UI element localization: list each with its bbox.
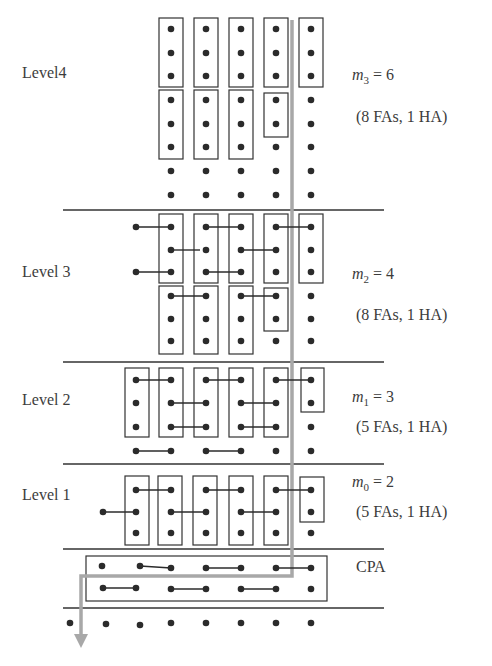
output-bit-dot [137,622,144,629]
output-bit-dot [168,620,175,627]
bit-dot [238,73,245,80]
bit-dot [203,400,210,407]
bit-dot [238,424,245,431]
bit-dot [168,293,175,300]
cpa-dot [203,586,210,593]
level-4-adder-count: (8 FAs, 1 HA) [356,108,447,126]
bit-dot [168,509,175,516]
bit-dot [203,50,210,57]
cpa-dot [273,565,280,572]
bit-dot [273,168,280,175]
output-bit-dot [103,621,110,628]
output-bit-dot [308,620,315,627]
bit-dot [238,224,245,231]
bit-dot [168,424,175,431]
bit-dot [203,73,210,80]
bit-dot [133,269,140,276]
bit-dot [168,192,175,199]
cpa-dot [133,585,140,592]
bit-dot [168,377,175,384]
bit-dot [203,192,210,199]
bit-dot [308,316,315,323]
bit-dot [238,338,245,345]
bit-dot [308,377,315,384]
bit-dot [133,530,140,537]
cpa-dot [203,565,210,572]
bit-dot [273,487,280,494]
bit-dot [238,293,245,300]
cpa-dot [238,565,245,572]
level-3-label: Level 3 [22,263,70,281]
adder-box [300,477,324,522]
bit-dot [203,121,210,128]
bit-dot [133,487,140,494]
bit-dot [238,26,245,33]
cpa-label: CPA [356,558,386,576]
bit-dot [273,338,280,345]
bit-dot [308,509,315,516]
bit-dot [203,530,210,537]
bit-dot [273,50,280,57]
bit-dot [273,293,280,300]
bit-dot [133,224,140,231]
bit-dot [273,424,280,431]
bit-dot [168,73,175,80]
output-bit-dot [203,620,210,627]
bit-dot [203,269,210,276]
cpa-dot [273,586,280,593]
output-bit-dot [238,620,245,627]
level-4-m-value: m3 = 6 [352,66,394,86]
bit-dot [273,247,280,254]
bit-dot [168,316,175,323]
level-1-label: Level 1 [22,486,70,504]
bit-dot [168,97,175,104]
arrow-head-icon [74,634,88,648]
cpa-dot [238,586,245,593]
bit-dot [273,509,280,516]
bit-dot [168,530,175,537]
bit-dot [203,448,210,455]
bit-dot [238,377,245,384]
level-3-adder-count: (8 FAs, 1 HA) [356,306,447,324]
bit-dot [238,247,245,254]
bit-dot [238,269,245,276]
output-bit-dot [67,620,74,627]
bit-dot [308,121,315,128]
bit-dot [133,400,140,407]
cpa-dot [99,563,106,570]
bit-dot [168,26,175,33]
bit-dot [308,448,315,455]
bit-dot [168,400,175,407]
bit-dot [168,487,175,494]
level-3-m-value: m2 = 4 [352,265,394,285]
bit-dot [203,97,210,104]
bit-dot [133,424,140,431]
bit-dot [133,448,140,455]
bit-dot [100,509,107,516]
bit-dot [308,338,315,345]
level-4-label: Level4 [22,64,66,82]
bit-dot [273,144,280,151]
level-1-m-value: m0 = 2 [352,473,394,493]
bit-dot [168,448,175,455]
bit-dot [238,509,245,516]
bit-dot [168,121,175,128]
bit-dot [308,97,315,104]
bit-dot [238,168,245,175]
cpa-dot [168,586,175,593]
bit-dot [308,50,315,57]
level-2-m-value: m1 = 3 [352,388,394,408]
bit-dot [273,530,280,537]
bit-dot [168,247,175,254]
bit-dot [273,400,280,407]
bit-dot [273,377,280,384]
bit-dot [203,487,210,494]
bit-dot [308,73,315,80]
bit-dot [168,168,175,175]
bit-dot [308,400,315,407]
critical-path-line [81,20,292,636]
cpa-dot [137,563,144,570]
level-2-adder-count: (5 FAs, 1 HA) [356,418,447,436]
cpa-dot [308,565,315,572]
bit-dot [168,50,175,57]
